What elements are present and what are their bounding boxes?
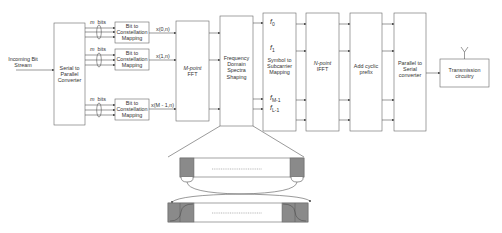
subcarrier-f0: f0 (270, 19, 275, 28)
cyclic-prefix-label: Add cyclicprefix (350, 63, 382, 75)
bit-mapping-label-2: Bit toConstellationMapping (115, 100, 149, 119)
diagram-canvas (0, 0, 502, 233)
bits-label-0: m bits (90, 19, 106, 25)
parallel-to-serial-label: Parallel toSerialconverter (394, 60, 426, 79)
serial-to-parallel-label: Serial to Parallel Converter (54, 65, 85, 84)
symbol-mapping-label: Symbol toSubcarrierMapping (263, 57, 296, 76)
npoint-ifft-label: N-pointIFFT (306, 60, 339, 72)
fft-input-label-0: x(0,n) (156, 26, 170, 32)
subcarrier-fm1: fM-1 (270, 95, 281, 104)
subcarrier-f1: f1 (270, 45, 275, 54)
subcarrier-fl1: fL-1 (270, 105, 279, 114)
fft-input-label-1: x(1,n) (156, 53, 170, 59)
fft-input-label-2: x(M - 1,n) (151, 102, 174, 108)
bits-label-1: m bits (90, 46, 106, 52)
mpoint-fft-label: M-pointFFT (176, 65, 209, 77)
freq-shaping-label: FrequencyDomain SpectraShaping (220, 55, 253, 80)
transmission-label: Transmissioncircuitry (440, 67, 489, 79)
bits-label-2: m bits (90, 96, 106, 102)
bit-mapping-label-1: Bit toConstellationMapping (115, 50, 149, 69)
spectrum-detail (168, 158, 311, 222)
input-label: Incoming BitStream (3, 56, 43, 68)
bit-mapping-label-0: Bit toConstellationMapping (115, 23, 149, 42)
